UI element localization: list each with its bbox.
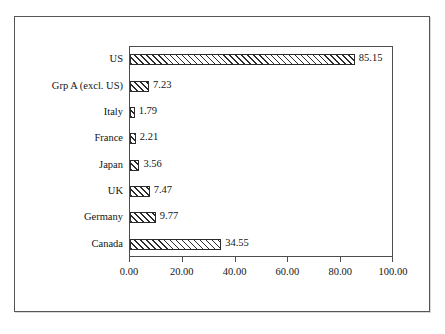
bar-row: 1.79 <box>130 101 392 125</box>
bar-row: 85.15 <box>130 48 392 72</box>
x-tick-label: 60.00 <box>276 266 300 278</box>
bar-row: 7.47 <box>130 180 392 204</box>
bar <box>130 186 150 197</box>
x-tick-mark <box>182 257 183 262</box>
bar-value-label: 9.77 <box>160 209 178 223</box>
bar-row: 34.55 <box>130 233 392 257</box>
x-tick-label: 0.00 <box>120 266 138 278</box>
category-label: Japan <box>99 159 123 170</box>
bar <box>130 160 139 171</box>
bar-value-label: 1.79 <box>139 104 157 118</box>
category-label: Grp A (excl. US) <box>52 80 123 91</box>
bar-value-label: 85.15 <box>359 51 383 65</box>
x-tick-label: 20.00 <box>170 266 194 278</box>
category-label: Germany <box>84 211 123 222</box>
bar <box>130 212 156 223</box>
x-tick-mark <box>340 257 341 262</box>
value-axis: 0.0020.0040.0060.0080.00100.00 <box>129 257 393 297</box>
category-label: UK <box>108 185 123 196</box>
bar-value-label: 7.23 <box>153 78 171 92</box>
x-tick-mark <box>235 257 236 262</box>
category-label: Canada <box>92 238 124 249</box>
plot-area: 85.157.231.792.213.567.479.7734.55 <box>129 46 393 257</box>
bar-chart: USGrp A (excl. US)ItalyFranceJapanUKGerm… <box>15 17 429 311</box>
bar-row: 9.77 <box>130 206 392 230</box>
x-tick-mark <box>287 257 288 262</box>
bar-row: 3.56 <box>130 154 392 178</box>
category-label: US <box>110 53 123 64</box>
bar <box>130 81 149 92</box>
bar <box>130 107 135 118</box>
bar-row: 2.21 <box>130 127 392 151</box>
category-label: Italy <box>104 106 123 117</box>
bar-value-label: 34.55 <box>225 236 249 250</box>
x-tick-label: 80.00 <box>328 266 352 278</box>
bar <box>130 239 221 250</box>
bar-value-label: 2.21 <box>140 130 158 144</box>
bar-value-label: 3.56 <box>143 157 161 171</box>
bar <box>130 133 136 144</box>
figure-frame: USGrp A (excl. US)ItalyFranceJapanUKGerm… <box>14 16 430 312</box>
x-tick-label: 40.00 <box>223 266 247 278</box>
bars-layer: 85.157.231.792.213.567.479.7734.55 <box>130 47 392 256</box>
bar-row: 7.23 <box>130 75 392 99</box>
x-tick-mark <box>392 257 393 262</box>
x-tick-mark <box>129 257 130 262</box>
bar-value-label: 7.47 <box>154 183 172 197</box>
x-tick-label: 100.00 <box>379 266 408 278</box>
category-label: France <box>94 132 123 143</box>
bar <box>130 54 355 65</box>
category-axis-labels: USGrp A (excl. US)ItalyFranceJapanUKGerm… <box>15 46 123 257</box>
